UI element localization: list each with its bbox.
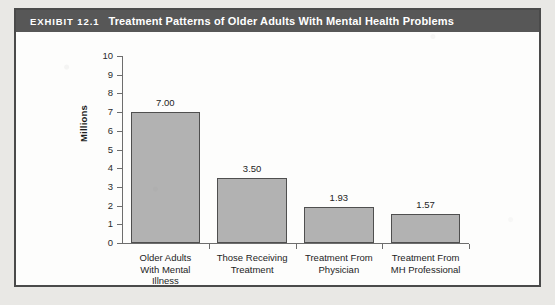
chart-plot-area: Millions 109876543210 Older Adults With … — [16, 32, 539, 285]
x-axis-tick — [209, 244, 210, 249]
x-axis-tick — [296, 244, 297, 249]
x-axis-category-label: Treatment From MH Professional — [382, 252, 469, 275]
y-axis-tick-label: 2 — [108, 200, 113, 211]
x-axis-tick — [382, 244, 383, 249]
y-axis-tick-label: 10 — [102, 50, 113, 61]
bar — [304, 207, 373, 243]
bar — [217, 178, 286, 243]
y-axis-tick-label: 9 — [108, 69, 113, 80]
y-axis-tick-label: 0 — [108, 237, 113, 248]
y-axis-title: Millions — [78, 105, 89, 142]
x-axis-category-label: Treatment From Physician — [296, 252, 383, 275]
exhibit-frame: EXHIBIT 12.1 Treatment Patterns of Older… — [14, 8, 541, 287]
y-axis-tick-label: 8 — [108, 87, 113, 98]
bar — [131, 112, 200, 243]
bar-value-label: 3.50 — [217, 163, 286, 174]
bar-value-label: 1.93 — [304, 192, 373, 203]
exhibit-number: EXHIBIT 12.1 — [30, 16, 99, 27]
x-axis-category-label: Those Receiving Treatment — [209, 252, 296, 275]
x-axis-category-label: Older Adults With Mental Illness — [122, 252, 209, 287]
y-axis-tick-label: 3 — [108, 181, 113, 192]
y-axis-tick-label: 4 — [108, 162, 113, 173]
x-axis-tick — [469, 244, 470, 249]
exhibit-title: Treatment Patterns of Older Adults With … — [108, 15, 454, 27]
y-axis-tick-label: 7 — [108, 106, 113, 117]
bar-value-label: 1.57 — [391, 199, 460, 210]
y-axis-tick-label: 6 — [108, 125, 113, 136]
y-axis-tick: 0 — [117, 243, 122, 244]
bar-series — [122, 56, 469, 243]
bar — [391, 214, 460, 243]
y-axis-tick-label: 5 — [108, 144, 113, 155]
exhibit-title-bar: EXHIBIT 12.1 Treatment Patterns of Older… — [16, 10, 539, 32]
y-axis-tick-label: 1 — [108, 218, 113, 229]
bar-value-label: 7.00 — [131, 97, 200, 108]
